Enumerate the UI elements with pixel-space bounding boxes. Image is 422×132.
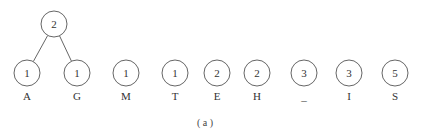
node-label: M [121, 90, 131, 102]
figure-caption: ( a ) [197, 117, 213, 129]
node-label: A [23, 90, 31, 102]
node-weight: 1 [172, 67, 178, 79]
node-weight: 5 [392, 67, 398, 79]
leaf-node-g: 1G [64, 60, 90, 102]
node-weight: 2 [214, 67, 220, 79]
node-label: E [214, 90, 221, 102]
huffman-tree-diagram: 1A1G1M1T2E2H3_3I5S 2 ( a ) [0, 0, 422, 132]
node-label: I [347, 90, 351, 102]
node-weight: 1 [74, 67, 80, 79]
node-label: _ [300, 90, 307, 102]
leaf-node-s: 5S [382, 60, 408, 102]
leaf-node-i: 3I [336, 60, 362, 102]
leaf-node-t: 1T [162, 60, 188, 102]
tree-edge [60, 36, 72, 61]
tree-edge [33, 35, 47, 61]
root-weight: 2 [51, 18, 57, 30]
node-weight: 3 [301, 67, 307, 79]
leaf-node-e: 2E [204, 60, 230, 102]
node-weight: 1 [123, 67, 129, 79]
node-weight: 3 [346, 67, 352, 79]
node-label: S [392, 90, 398, 102]
leaf-node-underscore: 3_ [291, 60, 317, 102]
leaf-node-h: 2H [244, 60, 270, 102]
node-label: G [73, 90, 81, 102]
leaf-node-m: 1M [113, 60, 139, 102]
node-weight: 2 [254, 67, 260, 79]
root-node: 2 [41, 11, 67, 37]
node-weight: 1 [24, 67, 30, 79]
node-label: T [172, 90, 179, 102]
node-label: H [253, 90, 261, 102]
leaf-node-a: 1A [14, 60, 40, 102]
